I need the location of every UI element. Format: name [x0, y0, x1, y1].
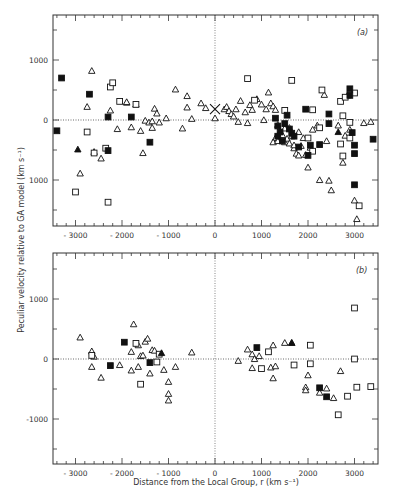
figure: - 3000- 2000- 10000100020003000100001000…	[0, 0, 397, 503]
data-point-triangle-open	[316, 177, 322, 183]
data-point-square-filled	[87, 91, 93, 97]
data-point-square-filled	[254, 345, 260, 351]
x-tick-label: 3000	[345, 231, 364, 240]
data-point-square-filled	[370, 136, 376, 142]
data-point-square-open	[307, 361, 313, 367]
panel-b: - 3000- 2000- 1000010002000300010000-100…	[26, 253, 378, 478]
data-point-square-filled	[352, 151, 358, 157]
data-point-triangle-filled	[75, 146, 81, 152]
data-point-triangle-open	[147, 370, 153, 376]
data-point-triangle-open	[98, 155, 104, 161]
data-point-square-open	[245, 76, 251, 82]
data-point-triangle-open	[305, 164, 311, 170]
data-point-triangle-open	[84, 104, 90, 110]
data-point-square-open	[338, 141, 344, 147]
data-point-triangle-open	[165, 391, 171, 397]
data-point-square-filled	[305, 153, 311, 159]
data-point-triangle-open	[233, 106, 239, 112]
data-point-square-filled	[275, 133, 281, 139]
data-point-triangle-open	[128, 367, 134, 373]
data-point-triangle-open	[242, 109, 248, 115]
data-point-triangle-open	[165, 397, 171, 403]
data-point-triangle-open	[77, 334, 83, 340]
x-tick-label: 1000	[252, 231, 271, 240]
data-point-triangle-open	[114, 126, 120, 132]
data-point-triangle-open	[123, 99, 129, 105]
data-point-square-open	[84, 129, 90, 135]
data-point-square-filled	[317, 385, 323, 391]
data-point-triangle-open	[237, 98, 243, 104]
x-tick-label: 0	[213, 231, 218, 240]
y-tick-label: -1000	[26, 415, 48, 424]
x-tick-label: 3000	[345, 469, 364, 478]
data-point-triangle-open	[235, 358, 241, 364]
data-point-triangle-open	[270, 342, 276, 348]
data-point-square-open	[356, 203, 362, 209]
data-point-triangle-open	[179, 125, 185, 131]
panel-a: - 3000- 2000- 10000100020003000100001000	[29, 15, 378, 240]
data-point-square-filled	[147, 360, 153, 366]
data-point-square-filled	[147, 139, 153, 145]
data-point-square-open	[352, 305, 358, 311]
data-point-square-open	[354, 384, 360, 390]
data-point-square-open	[347, 135, 353, 141]
data-point-square-open	[89, 353, 95, 359]
data-point-square-open	[117, 99, 123, 105]
data-point-square-filled	[282, 121, 288, 127]
data-point-square-filled	[291, 133, 297, 139]
data-point-square-open	[266, 349, 272, 355]
data-point-triangle-open	[305, 372, 311, 378]
data-point-triangle-open	[323, 138, 329, 144]
data-point-square-filled	[284, 112, 290, 118]
data-point-triangle-open	[140, 150, 146, 156]
data-point-square-open	[317, 125, 323, 131]
data-point-triangle-open	[244, 120, 250, 126]
data-point-square-open	[347, 120, 353, 126]
data-point-square-open	[345, 393, 351, 399]
data-point-square-filled	[275, 123, 281, 129]
data-point-square-open	[289, 78, 295, 84]
data-point-square-filled	[317, 142, 323, 148]
data-point-square-filled	[326, 111, 332, 117]
y-tick-label: 1000	[29, 295, 48, 304]
data-point-triangle-open	[249, 365, 255, 371]
data-point-square-open	[138, 381, 144, 387]
data-point-square-open	[154, 359, 160, 365]
y-tick-label: 0	[43, 116, 48, 125]
data-point-square-filled	[128, 114, 134, 120]
data-point-triangle-open	[77, 170, 83, 176]
data-point-triangle-open	[172, 364, 178, 370]
data-point-square-open	[133, 341, 139, 347]
y-tick-label: 1000	[29, 176, 48, 185]
data-point-triangle-open	[107, 107, 113, 113]
data-point-square-open	[291, 362, 297, 368]
data-point-triangle-open	[116, 362, 122, 368]
data-point-square-filled	[347, 86, 353, 92]
data-point-triangle-open	[89, 364, 95, 370]
data-point-square-open	[307, 342, 313, 348]
data-point-triangle-open	[130, 321, 136, 327]
data-point-triangle-open	[361, 120, 367, 126]
data-point-square-filled	[352, 142, 358, 148]
data-point-triangle-open	[135, 364, 141, 370]
x-axis-title: Distance from the Local Group, r (km s⁻¹…	[133, 478, 299, 487]
data-point-square-filled	[326, 121, 332, 127]
data-point-square-open	[335, 412, 341, 418]
data-point-triangle-filled	[289, 340, 295, 346]
data-point-triangle-open	[326, 177, 332, 183]
x-tick-label: 0	[213, 469, 218, 478]
x-tick-label: - 2000	[110, 469, 134, 478]
data-point-square-open	[340, 153, 346, 159]
data-point-triangle-open	[330, 395, 336, 401]
data-point-triangle-open	[161, 367, 167, 373]
data-point-square-filled	[273, 115, 279, 121]
data-point-triangle-open	[163, 115, 169, 121]
data-point-triangle-open	[198, 100, 204, 106]
data-point-triangle-open	[212, 115, 218, 121]
data-point-square-filled	[303, 106, 309, 112]
data-point-square-filled	[352, 182, 358, 188]
data-point-square-filled	[347, 93, 353, 99]
data-point-square-open	[259, 366, 265, 372]
data-point-triangle-open	[282, 340, 288, 346]
data-point-triangle-open	[256, 353, 262, 359]
